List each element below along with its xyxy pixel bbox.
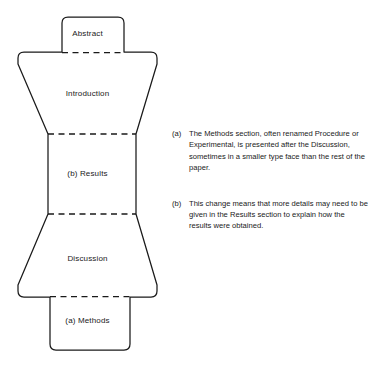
section-label-methods: (a) Methods xyxy=(0,316,175,325)
figure-notes: (a) The Methods section, often renamed P… xyxy=(172,128,368,256)
imrad-diagram: Abstract Introduction (b) Results Discus… xyxy=(0,0,175,365)
section-label-discussion: Discussion xyxy=(0,254,175,263)
figure-root: Abstract Introduction (b) Results Discus… xyxy=(0,0,368,365)
section-label-introduction: Introduction xyxy=(0,89,175,98)
section-label-results: (b) Results xyxy=(0,169,175,178)
note-text-b: This change means that more details may … xyxy=(189,198,368,232)
note-text-a: The Methods section, often renamed Proce… xyxy=(189,128,368,174)
hourglass-outline xyxy=(18,17,157,350)
section-label-abstract: Abstract xyxy=(0,29,175,38)
note-marker-b: (b) xyxy=(172,198,189,209)
note-marker-a: (a) xyxy=(172,128,189,139)
note-item-b: (b) This change means that more details … xyxy=(172,198,368,232)
diagram-svg xyxy=(0,0,175,365)
note-item-a: (a) The Methods section, often renamed P… xyxy=(172,128,368,174)
